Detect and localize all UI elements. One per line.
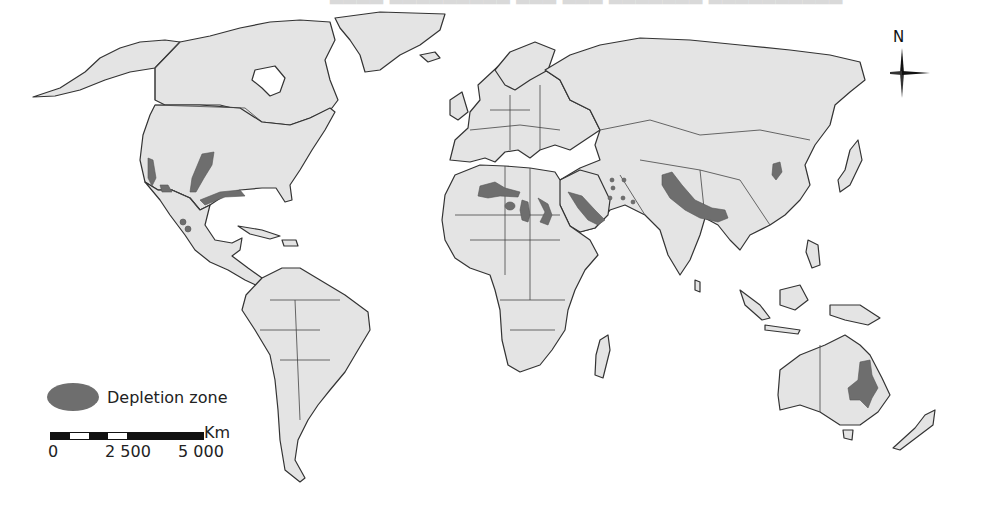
- landmass-sri-lanka: [695, 280, 700, 292]
- landmass-new-zealand: [893, 410, 935, 450]
- scale-bar-track: [50, 432, 204, 440]
- depletion-zone-libya-1: [505, 202, 515, 210]
- landmass-madagascar: [595, 335, 610, 378]
- legend-item-depletion-zone: Depletion zone: [47, 383, 228, 411]
- world-map-figure: ▀▀▀▀ ▀▀▀▀▀▀▀▀▀ ▀▀▀ ▀▀▀ ▀▀▀▀▀▀▀ ▀▀▀▀▀▀▀▀▀…: [0, 0, 1004, 510]
- depletion-zone-swatch-icon: [47, 383, 99, 411]
- landmass-hispaniola: [282, 240, 298, 246]
- landmass-borneo: [780, 285, 808, 310]
- depletion-zone-iran-1: [610, 178, 614, 182]
- north-arrow-icon: [890, 28, 950, 108]
- depletion-zone-libya-2: [520, 200, 530, 222]
- depletion-zone-mexico-1: [180, 219, 186, 225]
- landmass-asia: [545, 38, 865, 275]
- depletion-zone-iran-3: [611, 186, 615, 190]
- map-legend: Depletion zone: [47, 383, 228, 411]
- depletion-zone-iran-5: [621, 196, 625, 200]
- landmass-new-guinea: [830, 305, 880, 325]
- landmass-greenland: [335, 12, 445, 72]
- legend-label: Depletion zone: [107, 388, 228, 407]
- landmass-uk: [450, 92, 468, 120]
- landmass-japan: [838, 140, 862, 192]
- scale-unit-label: Km: [204, 423, 230, 442]
- depletion-zone-mexico-2: [185, 226, 191, 232]
- landmass-philippines: [806, 240, 820, 268]
- scale-tick-0: 0: [48, 442, 58, 461]
- landmass-sumatra: [740, 290, 770, 320]
- scale-tick-5000: 5 000: [178, 442, 224, 461]
- depletion-zone-iran-2: [622, 178, 626, 182]
- depletion-zone-iran-4: [608, 196, 612, 200]
- landmass-tasmania: [843, 430, 853, 440]
- landmass-java: [765, 325, 800, 334]
- landmass-iceland: [420, 52, 440, 62]
- landmass-cuba: [238, 226, 280, 239]
- depletion-zone-iran-6: [631, 200, 635, 204]
- scale-tick-2500: 2 500: [105, 442, 151, 461]
